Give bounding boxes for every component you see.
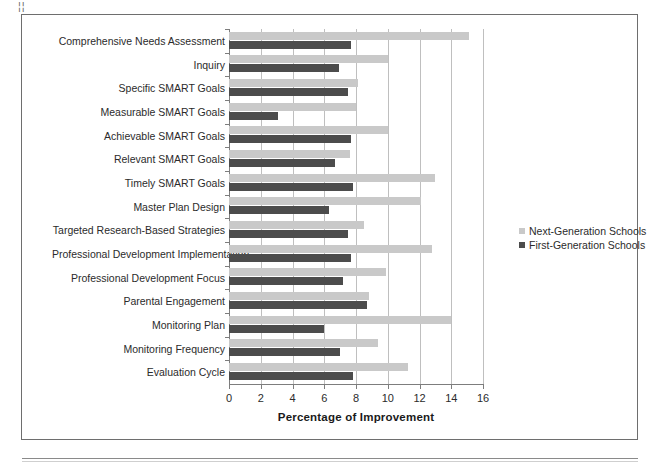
legend-label-next-generation: Next-Generation Schools [529, 225, 646, 237]
chart-row [229, 360, 483, 384]
chart-row [229, 337, 483, 361]
x-gridline-16 [483, 29, 484, 384]
bar-first-generation [229, 230, 348, 238]
bar-first-generation [229, 301, 367, 309]
x-tick-label-0: 0 [214, 392, 244, 404]
bar-first-generation [229, 277, 343, 285]
chart-row [229, 171, 483, 195]
category-label: Professional Development Focus [52, 272, 225, 284]
bar-next-generation [229, 126, 388, 134]
x-tick-label-14: 14 [436, 392, 466, 404]
bar-next-generation [229, 174, 435, 182]
category-axis-labels: Comprehensive Needs AssessmentInquirySpe… [52, 29, 225, 384]
chart-page: ¦¦ Comprehensive Needs AssessmentInquiry… [0, 0, 659, 475]
x-tick-14 [451, 384, 452, 389]
bar-next-generation [229, 79, 358, 87]
bar-next-generation [229, 292, 369, 300]
legend-item-next-generation: Next-Generation Schools [519, 225, 647, 237]
legend-swatch-next-generation [519, 228, 525, 234]
chart-row [229, 124, 483, 148]
legend-swatch-first-generation [519, 242, 525, 248]
chart-row [229, 53, 483, 77]
x-tick-4 [293, 384, 294, 389]
chart-legend: Next-Generation Schools First-Generation… [519, 225, 647, 253]
chart-row [229, 289, 483, 313]
category-label: Timely SMART Goals [52, 177, 225, 189]
category-label: Comprehensive Needs Assessment [52, 35, 225, 47]
x-tick-6 [324, 384, 325, 389]
plot-area [229, 29, 483, 384]
bar-next-generation [229, 221, 364, 229]
chart-row [229, 147, 483, 171]
chart-row [229, 195, 483, 219]
category-label: Master Plan Design [52, 201, 225, 213]
chart-row [229, 266, 483, 290]
category-label: Targeted Research-Based Strategies [52, 224, 225, 236]
category-label: Specific SMART Goals [52, 82, 225, 94]
bar-first-generation [229, 64, 339, 72]
chart-row [229, 100, 483, 124]
bar-first-generation [229, 41, 351, 49]
bar-first-generation [229, 254, 351, 262]
bar-first-generation [229, 348, 340, 356]
bar-next-generation [229, 339, 378, 347]
x-tick-label-6: 6 [309, 392, 339, 404]
category-label: Evaluation Cycle [52, 366, 225, 378]
bar-next-generation [229, 363, 408, 371]
legend-label-first-generation: First-Generation Schools [529, 239, 645, 251]
page-corner-mark: ¦¦ [18, 2, 40, 11]
bar-first-generation [229, 135, 351, 143]
bar-next-generation [229, 103, 356, 111]
bar-next-generation [229, 55, 388, 63]
bar-first-generation [229, 206, 329, 214]
bar-first-generation [229, 183, 353, 191]
category-label: Achievable SMART Goals [52, 130, 225, 142]
bar-next-generation [229, 197, 421, 205]
category-label: Monitoring Plan [52, 319, 225, 331]
chart-row [229, 29, 483, 53]
page-rule-top [22, 458, 638, 459]
x-tick-2 [261, 384, 262, 389]
chart-row [229, 242, 483, 266]
bar-next-generation [229, 245, 432, 253]
chart-row [229, 218, 483, 242]
bar-first-generation [229, 372, 353, 380]
x-axis-title: Percentage of Improvement [229, 411, 483, 423]
x-tick-10 [388, 384, 389, 389]
x-tick-16 [483, 384, 484, 389]
category-label: Measurable SMART Goals [52, 106, 225, 118]
x-tick-12 [420, 384, 421, 389]
bar-next-generation [229, 32, 469, 40]
category-label: Monitoring Frequency [52, 343, 225, 355]
legend-item-first-generation: First-Generation Schools [519, 239, 647, 251]
chart-frame: Comprehensive Needs AssessmentInquirySpe… [21, 14, 638, 440]
x-tick-label-16: 16 [468, 392, 498, 404]
x-tick-label-12: 12 [405, 392, 435, 404]
x-tick-0 [229, 384, 230, 389]
category-label: Professional Development Implementation [52, 248, 225, 260]
bar-first-generation [229, 325, 324, 333]
category-label: Relevant SMART Goals [52, 153, 225, 165]
category-label: Parental Engagement [52, 295, 225, 307]
x-tick-label-2: 2 [246, 392, 276, 404]
bar-next-generation [229, 150, 350, 158]
bar-first-generation [229, 112, 278, 120]
x-tick-label-8: 8 [341, 392, 371, 404]
bar-next-generation [229, 268, 386, 276]
chart-row [229, 313, 483, 337]
x-tick-label-4: 4 [278, 392, 308, 404]
bar-first-generation [229, 88, 348, 96]
category-label: Inquiry [52, 59, 225, 71]
x-tick-label-10: 10 [373, 392, 403, 404]
chart-row [229, 76, 483, 100]
bar-first-generation [229, 159, 335, 167]
x-tick-8 [356, 384, 357, 389]
bar-next-generation [229, 316, 451, 324]
page-rule-bottom [22, 461, 638, 462]
